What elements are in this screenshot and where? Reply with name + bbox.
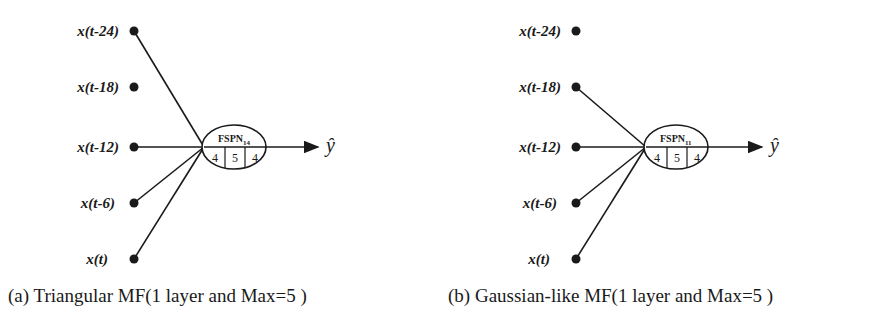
input-label: x(t-12) [76, 139, 119, 156]
diagram-canvas: x(t-24) x(t-18) x(t-12) x(t-6) x(t) FSPN… [0, 0, 869, 327]
edge-x-t-24 [134, 31, 204, 147]
input-node-dot [130, 27, 139, 36]
edge-x-t-18 [576, 87, 646, 147]
edge-x-t [576, 147, 646, 259]
input-label: x(t) [527, 251, 550, 268]
panel-b: x(t-24) x(t-18) x(t-12) x(t-6) x(t) FSPN… [518, 23, 779, 268]
input-node-dot [130, 255, 139, 264]
input-node-dot [572, 199, 581, 208]
fspn-cell: 4 [654, 151, 660, 165]
fspn-node: FSPN11 4 5 4 [644, 125, 762, 169]
input-node-dot [130, 83, 139, 92]
caption-b: (b) Gaussian-like MF(1 layer and Max=5 ) [448, 285, 773, 307]
edge-x-t-6 [134, 147, 204, 203]
panel-a: x(t-24) x(t-18) x(t-12) x(t-6) x(t) FSPN… [76, 23, 335, 268]
input-label: x(t-18) [76, 79, 119, 96]
input-label: x(t-12) [518, 139, 561, 156]
fspn-cell: 4 [212, 151, 218, 165]
input-node-dot [572, 143, 581, 152]
fspn-node: FSPN14 4 5 4 [202, 125, 318, 169]
input-node-dot [130, 143, 139, 152]
fspn-cell: 5 [232, 151, 238, 165]
input-node-dot [572, 83, 581, 92]
output-label: ŷ [324, 134, 335, 157]
fspn-cell: 5 [674, 151, 680, 165]
input-label: x(t-6) [522, 195, 557, 212]
input-label: x(t-24) [76, 23, 119, 40]
input-label: x(t-24) [518, 23, 561, 40]
input-node-dot [130, 199, 139, 208]
input-label: x(t-18) [518, 79, 561, 96]
input-node-dot [572, 255, 581, 264]
input-node-dot [572, 27, 581, 36]
input-label: x(t) [85, 251, 108, 268]
input-label: x(t-6) [80, 195, 115, 212]
fspn-cell: 4 [694, 151, 700, 165]
output-label: ŷ [768, 134, 779, 157]
edge-x-t-6 [576, 147, 646, 203]
edge-x-t [134, 147, 204, 259]
caption-a: (a) Triangular MF(1 layer and Max=5 ) [8, 285, 307, 307]
fspn-cell: 4 [252, 151, 258, 165]
